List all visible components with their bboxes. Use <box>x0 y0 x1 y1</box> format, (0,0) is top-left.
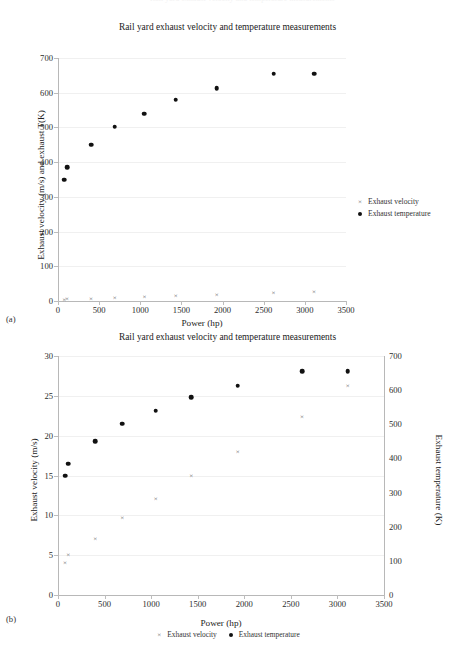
y-axis-line <box>58 58 59 301</box>
y-axis-tick-mark <box>54 356 58 357</box>
gridline <box>58 93 346 94</box>
y-axis-tick-mark <box>54 396 58 397</box>
data-point-velocity: × <box>310 288 317 295</box>
gridline <box>58 197 346 198</box>
data-point-velocity: × <box>172 292 179 299</box>
data-point-velocity: × <box>299 414 306 421</box>
y-axis-tick-mark <box>54 555 58 556</box>
x-axis-tick-label: 3500 <box>337 305 354 315</box>
gridline <box>58 436 384 437</box>
chart-b-plot-area: 0510152025300100200300400500600700050010… <box>58 356 384 595</box>
data-point-temperature <box>112 124 117 129</box>
y-axis-line <box>58 356 59 595</box>
x-axis-tick-mark <box>337 595 338 599</box>
x-axis-tick-label: 3000 <box>329 599 346 609</box>
legend-item-temperature: Exhaust temperature <box>356 208 431 220</box>
x-axis-tick-label: 2500 <box>282 599 299 609</box>
x-axis-tick-label: 3500 <box>375 599 392 609</box>
data-point-temperature <box>271 71 276 76</box>
y-axis-tick-mark <box>54 197 58 198</box>
chart-b-y2-axis-title: Exhaust temperature (K) <box>434 361 444 600</box>
data-point-temperature <box>345 369 350 374</box>
figure-page: Rail yard exhaust velocity and temperatu… <box>0 0 455 648</box>
gridline <box>58 232 346 233</box>
data-point-temperature <box>189 395 194 400</box>
legend-label-velocity: Exhaust velocity <box>167 630 216 639</box>
data-point-temperature <box>120 421 125 426</box>
dot-marker-icon <box>229 633 233 637</box>
data-point-velocity: × <box>141 293 148 300</box>
x-axis-tick-label: 500 <box>98 599 111 609</box>
running-head: Rail yard exhaust velocity and temperatu… <box>150 0 450 4</box>
gridline <box>58 58 346 59</box>
y2-axis-tick-label: 200 <box>389 522 402 532</box>
data-point-temperature <box>89 142 94 147</box>
chart-b-y-axis-title: Exhaust velocity (m/s) <box>29 361 39 600</box>
y2-axis-tick-label: 500 <box>389 419 402 429</box>
x-axis-tick-label: 2500 <box>255 305 272 315</box>
chart-a-title: Rail yard exhaust velocity and temperatu… <box>0 22 455 32</box>
y-axis-tick-label: 0 <box>49 296 53 306</box>
x-axis-line <box>58 595 384 596</box>
y-axis-tick-mark <box>54 58 58 59</box>
legend-label-temperature: Exhaust temperature <box>368 208 431 220</box>
x-axis-tick-mark <box>181 301 182 305</box>
data-point-temperature <box>235 383 240 388</box>
x-axis-tick-label: 0 <box>56 599 60 609</box>
x-axis-tick-mark <box>223 301 224 305</box>
data-point-temperature <box>93 439 98 444</box>
y2-axis-tick-label: 600 <box>389 385 402 395</box>
x-axis-line <box>58 301 346 302</box>
x-axis-tick-label: 2000 <box>214 305 231 315</box>
data-point-temperature <box>300 369 305 374</box>
dot-marker-icon <box>358 212 362 216</box>
gridline <box>58 555 384 556</box>
data-point-temperature <box>65 165 70 170</box>
x-axis-tick-mark <box>58 595 59 599</box>
gridline <box>58 127 346 128</box>
data-point-velocity: × <box>61 560 68 567</box>
y-axis-tick-mark <box>54 127 58 128</box>
x-marker-icon: × <box>356 196 364 208</box>
chart-b-x-axis-title: Power (hp) <box>58 618 384 628</box>
figure-b: Rail yard exhaust velocity and temperatu… <box>0 330 455 648</box>
x-axis-tick-mark <box>291 595 292 599</box>
x-axis-tick-label: 1000 <box>143 599 160 609</box>
y-axis-tick-mark <box>54 162 58 163</box>
x-axis-tick-label: 2000 <box>236 599 253 609</box>
data-point-velocity: × <box>234 448 241 455</box>
data-point-velocity: × <box>152 496 159 503</box>
x-axis-tick-label: 1000 <box>132 305 149 315</box>
x-axis-tick-mark <box>305 301 306 305</box>
data-point-temperature <box>312 71 317 76</box>
y-axis-tick-label: 25 <box>44 391 53 401</box>
chart-a-sublabel: (a) <box>6 314 16 324</box>
gridline <box>58 476 384 477</box>
data-point-velocity: × <box>64 296 71 303</box>
figure-a: Rail yard exhaust velocity and temperatu… <box>0 18 455 328</box>
y-axis-tick-label: 0 <box>49 590 53 600</box>
y2-axis-tick-label: 300 <box>389 488 402 498</box>
x-axis-tick-label: 3000 <box>296 305 313 315</box>
data-point-temperature <box>62 177 67 182</box>
data-point-velocity: × <box>65 552 72 559</box>
y2-axis-line <box>384 356 385 595</box>
chart-a-plot-area: 0100200300400500600700050010001500200025… <box>58 58 346 301</box>
y-axis-tick-label: 15 <box>44 471 53 481</box>
data-point-velocity: × <box>344 383 351 390</box>
data-point-velocity: × <box>188 472 195 479</box>
gridline <box>58 162 346 163</box>
legend-label-temperature: Exhaust temperature <box>239 630 300 639</box>
y-axis-tick-mark <box>54 266 58 267</box>
chart-a-y-axis-title: Exhaust velocity (m/s) and exhaust T(K) <box>36 64 46 307</box>
data-point-velocity: × <box>87 295 94 302</box>
y-axis-tick-mark <box>54 476 58 477</box>
x-marker-icon: × <box>155 631 163 639</box>
x-axis-tick-mark <box>384 595 385 599</box>
y-axis-tick-label: 20 <box>44 431 53 441</box>
y-axis-tick-label: 30 <box>44 351 53 361</box>
gridline <box>58 356 384 357</box>
y-axis-tick-mark <box>54 232 58 233</box>
x-axis-tick-label: 1500 <box>189 599 206 609</box>
data-point-velocity: × <box>111 294 118 301</box>
